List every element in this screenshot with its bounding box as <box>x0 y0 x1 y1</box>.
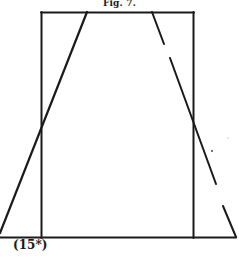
geometric-figure <box>0 0 239 259</box>
stray-mark <box>211 150 213 152</box>
right-slanted-line-segment-1 <box>152 12 164 44</box>
equation-label: (15*) <box>13 238 47 252</box>
right-slanted-line-segment-3 <box>223 206 236 237</box>
left-slanted-line <box>0 12 87 233</box>
stray-speck <box>228 138 229 139</box>
